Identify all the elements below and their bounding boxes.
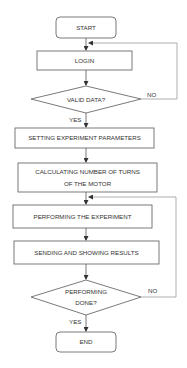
valid-no-label: NO: [147, 91, 156, 98]
setting-parameters-node: SETTING EXPERIMENT PARAMETERS: [15, 128, 154, 148]
sending-results-label: SENDING AND SHOWING RESULTS: [34, 249, 138, 256]
calculating-label-line1: CALCULATING NUMBER OF TURNS: [35, 168, 140, 175]
sending-results-node: SENDING AND SHOWING RESULTS: [14, 241, 159, 264]
performing-done-decision: PERFORMING DONE?: [31, 280, 141, 315]
valid-yes-label: YES: [69, 116, 81, 123]
start-node: START: [56, 17, 116, 38]
valid-data-label: VALID DATA?: [67, 96, 106, 103]
flowchart: START LOGIN VALID DATA? NO YES SETTING E…: [0, 0, 187, 368]
valid-data-decision: VALID DATA?: [31, 86, 141, 113]
start-label: START: [76, 24, 96, 31]
end-label: END: [79, 338, 93, 345]
performing-experiment-label: PERFORMING THE EXPERIMENT: [34, 213, 132, 220]
setting-parameters-label: SETTING EXPERIMENT PARAMETERS: [28, 134, 141, 141]
done-yes-label: YES: [69, 318, 81, 325]
performing-done-label-line2: DONE?: [75, 299, 97, 306]
calculating-label-line2: OF THE MOTOR: [64, 180, 112, 187]
login-node: LOGIN: [37, 51, 132, 70]
performing-done-label-line1: PERFORMING: [65, 288, 107, 295]
end-node: END: [56, 332, 116, 352]
done-no-label: NO: [148, 287, 157, 294]
performing-experiment-node: PERFORMING THE EXPERIMENT: [13, 205, 152, 228]
calculating-node: CALCULATING NUMBER OF TURNS OF THE MOTOR: [18, 163, 157, 192]
login-label: LOGIN: [75, 57, 94, 64]
